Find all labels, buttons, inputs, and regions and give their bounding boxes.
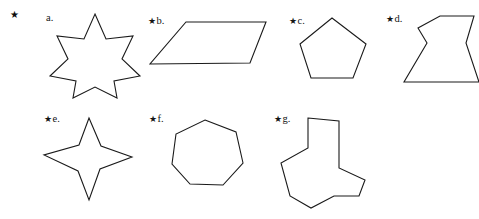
shape-g-concave-tri-lobed-polygon (281, 118, 365, 208)
shape-label-e: ★e. (44, 114, 60, 125)
shape-label-b: ★b. (148, 16, 164, 27)
shape-label-text-e: e. (53, 113, 60, 124)
shape-label-text-a: a. (46, 12, 53, 23)
bullet-star-item-g: ★ (274, 114, 283, 124)
bullet-star-item-f: ★ (149, 114, 158, 124)
shape-label-text-c: c. (298, 15, 305, 26)
shape-e-four-pointed-star (44, 118, 132, 200)
shape-b-parallelogram (150, 22, 266, 64)
shape-label-d: ★d. (386, 14, 402, 25)
bullet-star-item-a: ★ (10, 10, 19, 20)
shape-c-pentagon (300, 18, 366, 78)
figure-canvas: ★ a.★b.★c.★d.★e.★f.★g. (0, 0, 479, 219)
bullet-star-item-c: ★ (289, 16, 298, 26)
shape-label-text-f: f. (158, 113, 164, 124)
shape-f-heptagon (172, 120, 243, 185)
shape-label-f: ★f. (149, 114, 164, 125)
bullet-star-item-d: ★ (386, 14, 395, 24)
shape-a-eight-pointed-star (50, 14, 140, 98)
shape-label-text-b: b. (157, 15, 165, 26)
shape-label-c: ★c. (289, 16, 305, 27)
shape-d-concave-hourglass (404, 16, 479, 82)
shape-label-a: a. (46, 13, 53, 24)
shape-label-text-g: g. (283, 113, 291, 124)
bullet-star-item-e: ★ (44, 114, 53, 124)
bullet-star-item-b: ★ (148, 16, 157, 26)
shape-label-text-d: d. (395, 13, 403, 24)
shape-label-g: ★g. (274, 114, 290, 125)
shapes-layer (0, 0, 479, 219)
